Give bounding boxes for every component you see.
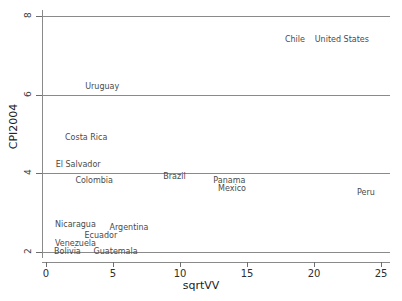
gridline-y — [42, 173, 390, 174]
x-tick-mark — [180, 262, 181, 267]
y-tick-mark — [36, 16, 42, 17]
data-point-label: Chile — [285, 36, 305, 44]
data-point-label: Uruguay — [85, 83, 119, 91]
data-point-label: Peru — [357, 189, 375, 197]
x-tick-mark — [314, 262, 315, 267]
data-point-label: El Salvador — [56, 161, 101, 169]
gridline-y — [42, 16, 390, 17]
plot-area: ChileUnited StatesUruguayCosta RicaEl Sa… — [42, 10, 390, 258]
x-tick-mark — [381, 262, 382, 267]
data-point-label: Costa Rica — [65, 134, 107, 142]
data-point-label: Nicaragua — [55, 221, 96, 229]
x-tick-label: 5 — [100, 268, 126, 279]
data-point-label: Brazil — [163, 173, 185, 181]
x-tick-mark — [247, 262, 248, 267]
y-tick-label: 6 — [23, 87, 33, 101]
data-point-label: Bolivia — [54, 248, 81, 256]
x-tick-label: 20 — [301, 268, 327, 279]
data-point-label: Colombia — [75, 177, 113, 185]
y-tick-mark — [36, 173, 42, 174]
y-axis-title: CPI2004 — [7, 92, 20, 162]
y-tick-label: 8 — [23, 8, 33, 22]
x-tick-label: 0 — [33, 268, 59, 279]
data-point-label: United States — [315, 36, 369, 44]
x-tick-label: 25 — [368, 268, 394, 279]
y-tick-mark — [36, 95, 42, 96]
y-tick-mark — [36, 252, 42, 253]
x-axis-title: sqrtVV — [0, 279, 402, 292]
x-tick-mark — [113, 262, 114, 267]
x-axis-line — [42, 262, 390, 263]
x-tick-mark — [46, 262, 47, 267]
y-tick-label: 4 — [23, 165, 33, 179]
data-point-label: Mexico — [218, 185, 246, 193]
data-point-label: Guatemala — [94, 248, 138, 256]
gridline-y — [42, 95, 390, 96]
x-tick-label: 10 — [167, 268, 193, 279]
y-tick-label: 2 — [23, 244, 33, 258]
x-tick-label: 15 — [234, 268, 260, 279]
scatter-plot-figure: ChileUnited StatesUruguayCosta RicaEl Sa… — [0, 0, 402, 301]
